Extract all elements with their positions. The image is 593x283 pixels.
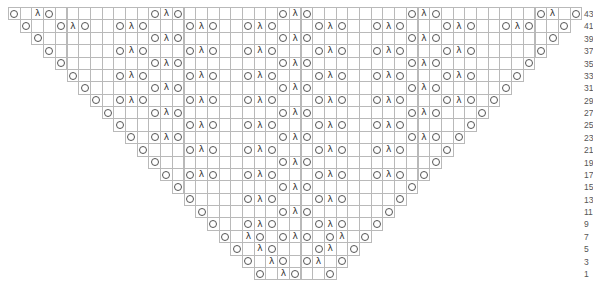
row-number-label: 17: [584, 169, 593, 181]
yarn-over-icon: [558, 19, 571, 32]
row-number-label: 19: [584, 157, 593, 169]
yarn-over-icon: [453, 131, 466, 144]
yarn-over-icon: [347, 242, 360, 255]
yarn-over-icon: [570, 7, 583, 20]
row-number-label: 9: [584, 218, 589, 230]
yarn-over-icon: [359, 230, 372, 243]
yarn-over-icon: [511, 69, 524, 82]
yarn-over-icon: [441, 143, 454, 156]
row-number-label: 39: [584, 33, 593, 45]
yarn-over-icon: [324, 267, 337, 280]
yarn-over-icon: [336, 255, 349, 268]
row-number-label: 23: [584, 132, 593, 144]
row-number-label: 33: [584, 70, 593, 82]
yarn-over-icon: [464, 118, 477, 131]
yarn-over-icon: [476, 106, 489, 119]
yarn-over-icon: [394, 193, 407, 206]
yarn-over-icon: [406, 180, 419, 193]
row-number-label: 3: [584, 256, 589, 268]
row-number-label: 15: [584, 181, 593, 193]
yarn-over-icon: [429, 156, 442, 169]
row-number-label: 43: [584, 8, 593, 20]
row-number-label: 13: [584, 194, 593, 206]
yarn-over-icon: [523, 57, 536, 70]
row-number-label: 5: [584, 243, 589, 255]
row-number-label: 27: [584, 107, 593, 119]
row-number-label: 21: [584, 144, 593, 156]
row-number-label: 29: [584, 95, 593, 107]
yarn-over-icon: [535, 44, 548, 57]
yarn-over-icon: [382, 205, 395, 218]
row-number-label: 25: [584, 119, 593, 131]
yarn-over-icon: [418, 168, 431, 181]
yarn-over-icon: [371, 217, 384, 230]
row-number-label: 1: [584, 268, 589, 280]
row-number-label: 7: [584, 231, 589, 243]
row-number-label: 41: [584, 20, 593, 32]
row-number-label: 31: [584, 82, 593, 94]
row-number-label: 35: [584, 58, 593, 70]
row-number-label: 37: [584, 45, 593, 57]
yarn-over-icon: [488, 94, 501, 107]
row-number-label: 11: [584, 206, 593, 218]
yarn-over-icon: [546, 32, 559, 45]
yarn-over-icon: [499, 81, 512, 94]
